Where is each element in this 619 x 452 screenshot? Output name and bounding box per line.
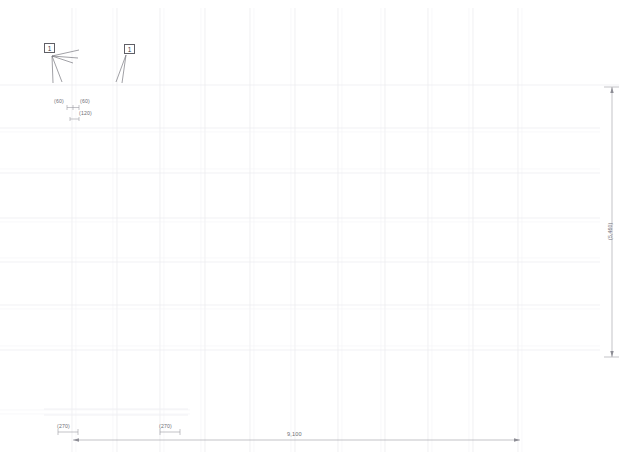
section-marker-1-left[interactable]: 1 bbox=[44, 43, 55, 53]
grid-vertical-lines-faint bbox=[76, 8, 522, 452]
grid-horizontal-lines bbox=[0, 85, 619, 350]
dimension-label-bottom-mid: (270) bbox=[159, 424, 172, 429]
dimension-label-detail-left: (60) bbox=[54, 99, 64, 104]
bottom-dimension-mid bbox=[160, 429, 180, 435]
dimension-label-detail-total: (120) bbox=[79, 111, 92, 116]
grid-vertical-lines bbox=[72, 8, 518, 452]
section-leader-lines-group-1 bbox=[52, 50, 79, 83]
dimension-label-right-overall: (5,460) bbox=[608, 223, 613, 241]
dimension-label-bottom-left: (270) bbox=[57, 424, 70, 429]
dimension-label-bottom-overall: 9,100 bbox=[287, 432, 302, 438]
section-marker-1-right[interactable]: 1 bbox=[124, 44, 135, 54]
bottom-dimension-left bbox=[58, 429, 78, 435]
grid-horizontal-lines-faint bbox=[0, 132, 600, 414]
section-leader-lines-group-2 bbox=[116, 55, 126, 83]
detail-dimension-ticks bbox=[67, 105, 79, 121]
dimension-label-detail-right: (60) bbox=[80, 99, 90, 104]
cad-vector-layer bbox=[0, 0, 619, 452]
cad-drawing-canvas[interactable]: 1 1 (60) (60) (120) (270) (270) 9,100 (5… bbox=[0, 0, 619, 452]
